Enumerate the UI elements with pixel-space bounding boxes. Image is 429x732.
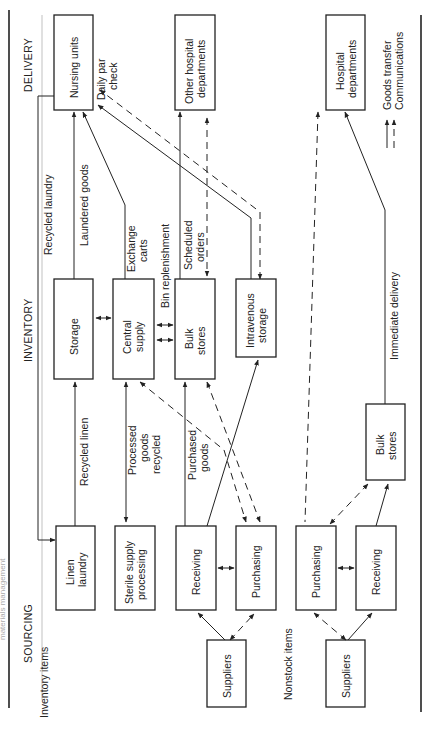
- svg-text:departments: departments: [346, 40, 358, 98]
- box-nonstock-receiving: Receiving: [356, 526, 396, 610]
- label-daily-par-2: check: [107, 62, 119, 90]
- comm-ns-suppliers-purchasing: [314, 613, 346, 640]
- box-storage: Storage: [54, 279, 93, 379]
- label-scheduled: Scheduled: [182, 220, 194, 270]
- svg-text:Suppliers: Suppliers: [221, 654, 233, 698]
- label-scheduled-2: orders: [194, 232, 206, 262]
- box-sterile-supply-processing: Sterile supply processing: [115, 526, 155, 610]
- box-nursing-units: Nursing units: [54, 15, 93, 110]
- label-processed: Processed: [126, 425, 138, 475]
- svg-text:stores: stores: [386, 431, 398, 460]
- box-intravenous-storage: Intravenous storage: [236, 279, 276, 357]
- svg-text:storage: storage: [256, 308, 268, 343]
- box-other-hospital-departments: Other hospital departments: [175, 15, 215, 110]
- label-daily-par: Daily par: [95, 58, 107, 100]
- svg-text:Purchasing: Purchasing: [310, 545, 322, 598]
- legend-goods-transfer: Goods transfer: [381, 40, 393, 110]
- label-exchange: Exchange: [125, 225, 137, 272]
- svg-text:Receiving: Receiving: [370, 549, 382, 595]
- label-purchased: Purchased: [186, 430, 198, 480]
- flow-recycled-laundry: [38, 96, 55, 540]
- svg-text:Central: Central: [121, 320, 133, 354]
- svg-text:Nursing units: Nursing units: [68, 37, 80, 98]
- svg-text:processing: processing: [135, 549, 147, 600]
- comm-hospital-to-ns-purchasing: [305, 112, 318, 522]
- edge-caption: materials management: [0, 558, 7, 640]
- label-immediate-delivery: Immediate delivery: [388, 271, 400, 360]
- svg-text:Storage: Storage: [68, 318, 80, 355]
- box-central-supply: Central supply: [113, 279, 154, 379]
- header-sourcing: SOURCING: [22, 604, 34, 663]
- box-nonstock-purchasing: Purchasing: [296, 526, 336, 610]
- label-laundered-goods: Laundered goods: [78, 164, 90, 246]
- materials-flow-diagram: materials management DELIVERY INVENTORY …: [0, 0, 429, 732]
- svg-text:Sterile supply: Sterile supply: [123, 540, 135, 604]
- svg-text:Receiving: Receiving: [190, 549, 202, 595]
- box-bulk-stores: Bulk stores: [175, 279, 215, 379]
- svg-text:Linen: Linen: [64, 559, 76, 585]
- box-receiving: Receiving: [176, 526, 216, 610]
- box-nonstock-bulk-stores: Bulk stores: [366, 404, 405, 480]
- flow-immediate-delivery: [345, 112, 385, 404]
- svg-text:supply: supply: [133, 321, 145, 352]
- flow-iv-to-nursing: [98, 105, 251, 279]
- svg-text:stores: stores: [195, 326, 207, 355]
- box-linen-laundry: Linen laundry: [56, 526, 95, 610]
- legend-communications: Communications: [393, 32, 405, 110]
- label-processed-3: recycled: [150, 435, 162, 474]
- label-processed-2: goods: [138, 433, 150, 462]
- label-recycled-laundry: Recycled laundry: [42, 174, 54, 255]
- svg-text:Suppliers: Suppliers: [340, 654, 352, 698]
- header-delivery: DELIVERY: [22, 38, 34, 92]
- section-nonstock-items: Nonstock items: [282, 628, 294, 700]
- flow-suppliers-receiving: [198, 613, 225, 640]
- svg-text:Intravenous: Intravenous: [244, 293, 256, 348]
- box-suppliers: Suppliers: [207, 640, 246, 707]
- flow-ns-suppliers-receiving: [348, 613, 372, 640]
- svg-text:departments: departments: [195, 40, 207, 98]
- box-hospital-departments: Hospital departments: [326, 15, 365, 110]
- section-inventory-items: Inventory items: [38, 647, 50, 718]
- comm-suppliers-purchasing: [230, 614, 254, 640]
- label-bin-replenishment: Bin replenishment: [159, 224, 171, 308]
- box-purchasing: Purchasing: [236, 526, 276, 610]
- label-recycled-linen: Recycled linen: [78, 418, 90, 486]
- box-nonstock-suppliers: Suppliers: [326, 640, 365, 707]
- svg-text:Bulk: Bulk: [374, 434, 386, 455]
- svg-text:Hospital: Hospital: [334, 52, 346, 90]
- svg-text:Bulk: Bulk: [183, 328, 195, 349]
- svg-text:Purchasing: Purchasing: [250, 545, 262, 598]
- flow-ns-receiving-bulk: [376, 484, 388, 526]
- svg-text:laundry: laundry: [76, 552, 88, 587]
- label-exchange-2: carts: [137, 239, 149, 262]
- comm-ns-purchasing-bulk: [330, 484, 368, 524]
- header-inventory: INVENTORY: [22, 298, 34, 362]
- label-purchased-2: goods: [198, 443, 210, 472]
- svg-text:Other hospital: Other hospital: [183, 39, 195, 104]
